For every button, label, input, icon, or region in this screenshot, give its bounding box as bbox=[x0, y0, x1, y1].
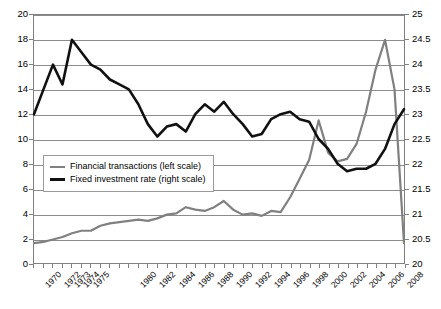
x-axis-tick-label: 2000 bbox=[330, 270, 349, 289]
x-axis-tick bbox=[81, 264, 82, 268]
x-axis-tick bbox=[43, 264, 44, 268]
x-axis-tick bbox=[90, 264, 91, 268]
legend-label: Fixed investment rate (right scale) bbox=[70, 173, 206, 186]
x-axis-tick bbox=[405, 264, 406, 268]
y-axis-left-tick-label: 0 bbox=[2, 259, 28, 269]
y-axis-right-tick-label: 24.5 bbox=[412, 34, 441, 44]
chart-figure: 02468101214161820 2020.52121.52222.52323… bbox=[0, 0, 441, 309]
y-axis-right-tick-label: 23 bbox=[412, 109, 441, 119]
x-axis-tick-label: 1992 bbox=[253, 270, 272, 289]
x-axis-tick bbox=[329, 264, 330, 268]
y-axis-right-tick-label: 20 bbox=[412, 259, 441, 269]
y-axis-left-tick-label: 10 bbox=[2, 134, 28, 144]
x-axis-tick bbox=[52, 264, 53, 268]
y-axis-left-tick bbox=[29, 14, 33, 15]
x-axis-tick bbox=[176, 264, 177, 268]
y-axis-right-tick bbox=[405, 39, 409, 40]
y-axis-right-tick-label: 21 bbox=[412, 209, 441, 219]
y-axis-left-tick-label: 18 bbox=[2, 34, 28, 44]
y-axis-right-tick bbox=[405, 164, 409, 165]
y-axis-right-tick bbox=[405, 14, 409, 15]
x-axis-tick bbox=[243, 264, 244, 268]
y-axis-left-tick bbox=[29, 39, 33, 40]
x-axis-tick-label: 1994 bbox=[272, 270, 291, 289]
x-axis-tick bbox=[33, 264, 34, 268]
y-axis-right-tick-label: 24 bbox=[412, 59, 441, 69]
y-axis-left-tick-label: 14 bbox=[2, 84, 28, 94]
legend-item: Fixed investment rate (right scale) bbox=[50, 173, 206, 186]
x-axis-tick-label: 1982 bbox=[158, 270, 177, 289]
x-axis-tick bbox=[214, 264, 215, 268]
x-axis-tick bbox=[195, 264, 196, 268]
x-axis-tick bbox=[376, 264, 377, 268]
x-axis-tick bbox=[233, 264, 234, 268]
x-axis-tick bbox=[386, 264, 387, 268]
y-axis-left-tick-label: 6 bbox=[2, 184, 28, 194]
y-axis-right-tick-label: 22.5 bbox=[412, 134, 441, 144]
y-axis-left-tick-label: 20 bbox=[2, 9, 28, 19]
x-axis-tick bbox=[119, 264, 120, 268]
series-lines bbox=[34, 15, 404, 263]
x-axis-tick bbox=[310, 264, 311, 268]
x-axis-tick-label: 1970 bbox=[44, 270, 63, 289]
y-axis-left-tick bbox=[29, 164, 33, 165]
x-axis-tick bbox=[348, 264, 349, 268]
y-axis-left-tick-label: 12 bbox=[2, 109, 28, 119]
x-axis-tick bbox=[71, 264, 72, 268]
gray-line-swatch bbox=[50, 166, 65, 168]
legend-label: Financial transactions (left scale) bbox=[70, 160, 201, 173]
y-axis-left-tick-label: 4 bbox=[2, 209, 28, 219]
x-axis-tick bbox=[300, 264, 301, 268]
y-axis-left-tick-label: 2 bbox=[2, 234, 28, 244]
y-axis-left-tick bbox=[29, 139, 33, 140]
y-axis-right-tick bbox=[405, 214, 409, 215]
x-axis-tick bbox=[367, 264, 368, 268]
y-axis-right-tick-label: 20.5 bbox=[412, 234, 441, 244]
chart-legend: Financial transactions (left scale) Fixe… bbox=[43, 155, 214, 192]
x-axis-tick-label: 2004 bbox=[368, 270, 387, 289]
y-axis-right-tick-label: 22 bbox=[412, 159, 441, 169]
x-axis-tick-label: 2006 bbox=[387, 270, 406, 289]
x-axis-tick bbox=[291, 264, 292, 268]
y-axis-left-tick bbox=[29, 214, 33, 215]
x-axis-tick-label: 1996 bbox=[292, 270, 311, 289]
x-axis-tick-label: 1998 bbox=[311, 270, 330, 289]
x-axis-tick bbox=[224, 264, 225, 268]
x-axis-tick bbox=[147, 264, 148, 268]
x-axis-tick bbox=[271, 264, 272, 268]
x-axis-tick-label: 1986 bbox=[196, 270, 215, 289]
x-axis-tick bbox=[262, 264, 263, 268]
x-axis-tick-label: 1990 bbox=[234, 270, 253, 289]
y-axis-right-tick bbox=[405, 114, 409, 115]
y-axis-right-tick-label: 21.5 bbox=[412, 184, 441, 194]
x-axis-tick bbox=[100, 264, 101, 268]
x-axis-tick-label: 2008 bbox=[406, 270, 425, 289]
x-axis-tick bbox=[357, 264, 358, 268]
plot-area bbox=[33, 14, 405, 264]
y-axis-right-tick bbox=[405, 139, 409, 140]
x-axis-tick bbox=[138, 264, 139, 268]
x-axis-tick bbox=[205, 264, 206, 268]
x-axis-tick-label: 2002 bbox=[349, 270, 368, 289]
y-axis-right-tick bbox=[405, 189, 409, 190]
y-axis-right-tick bbox=[405, 64, 409, 65]
y-axis-left-tick bbox=[29, 239, 33, 240]
y-axis-right-tick-label: 23.5 bbox=[412, 84, 441, 94]
financial-transactions-line bbox=[34, 40, 404, 243]
x-axis-tick bbox=[338, 264, 339, 268]
x-axis-tick-label: 1984 bbox=[177, 270, 196, 289]
y-axis-left-tick bbox=[29, 64, 33, 65]
y-axis-left-tick-label: 16 bbox=[2, 59, 28, 69]
x-axis-tick bbox=[167, 264, 168, 268]
x-axis-tick bbox=[395, 264, 396, 268]
x-axis-tick-label: 1988 bbox=[215, 270, 234, 289]
x-axis-tick bbox=[319, 264, 320, 268]
x-axis-tick bbox=[252, 264, 253, 268]
x-axis-tick-label: 1980 bbox=[139, 270, 158, 289]
y-axis-right-tick bbox=[405, 89, 409, 90]
x-axis-tick bbox=[109, 264, 110, 268]
y-axis-left-tick bbox=[29, 89, 33, 90]
black-line-swatch bbox=[50, 178, 65, 181]
y-axis-right-tick bbox=[405, 239, 409, 240]
fixed-investment-rate-line bbox=[34, 40, 404, 171]
